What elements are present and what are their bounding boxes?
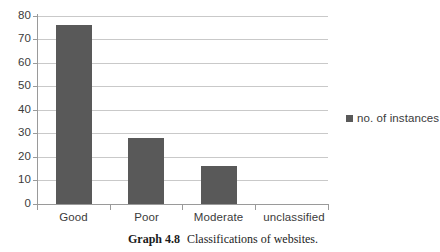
chart-legend: no. of instances	[346, 112, 439, 124]
bar-good	[56, 25, 92, 204]
caption-label: Graph 4.8	[128, 232, 180, 246]
legend-label-no-of-instances: no. of instances	[357, 112, 439, 124]
y-tick-label-60: 60	[5, 57, 31, 69]
x-tick-label-poor: Poor	[110, 211, 183, 224]
x-tick-label-good: Good	[37, 211, 110, 224]
bars-layer	[37, 16, 328, 204]
y-tick-label-40: 40	[5, 104, 31, 116]
caption-text: Classifications of websites.	[187, 232, 318, 246]
x-tick-mark-1	[110, 205, 111, 210]
y-tick-label-30: 30	[5, 127, 31, 139]
x-tick-label-moderate: Moderate	[182, 211, 255, 224]
x-tick-label-unclassified: unclassified	[255, 211, 333, 224]
x-tick-mark-2	[182, 205, 183, 210]
figure-caption: Graph 4.8Classifications of websites.	[128, 232, 318, 246]
x-tick-mark-4	[328, 205, 329, 210]
bar-poor	[128, 138, 164, 204]
y-axis-line	[37, 14, 38, 206]
y-tick-label-70: 70	[5, 33, 31, 45]
y-axis-labels: 80 70 60 50 40 30 20 10 0	[0, 0, 31, 252]
y-tick-label-10: 10	[5, 174, 31, 186]
y-tick-label-80: 80	[5, 10, 31, 22]
bar-chart-figure: 80 70 60 50 40 30 20 10 0	[0, 0, 440, 252]
x-axis-line	[37, 204, 329, 205]
y-tick-label-20: 20	[5, 151, 31, 163]
legend-swatch-icon	[346, 115, 353, 122]
y-tick-label-50: 50	[5, 80, 31, 92]
x-tick-mark-0	[37, 205, 38, 210]
y-tick-label-0: 0	[5, 198, 31, 210]
bar-moderate	[201, 166, 237, 204]
x-tick-mark-3	[255, 205, 256, 210]
